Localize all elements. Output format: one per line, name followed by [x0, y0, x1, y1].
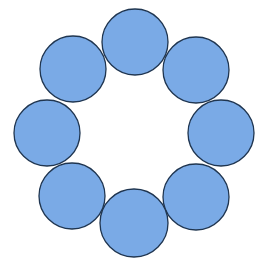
circle-top-left: [40, 36, 106, 102]
circles-group: [14, 9, 254, 257]
circle-bottom: [100, 189, 168, 257]
circle-bottom-right: [163, 164, 229, 230]
ring-of-circles-diagram: [0, 0, 266, 269]
circle-bottom-left: [39, 163, 105, 229]
circle-right: [188, 100, 254, 166]
diagram-canvas: [0, 0, 266, 269]
circle-left: [14, 100, 80, 166]
circle-top-right: [163, 37, 229, 103]
circle-top: [102, 9, 168, 75]
